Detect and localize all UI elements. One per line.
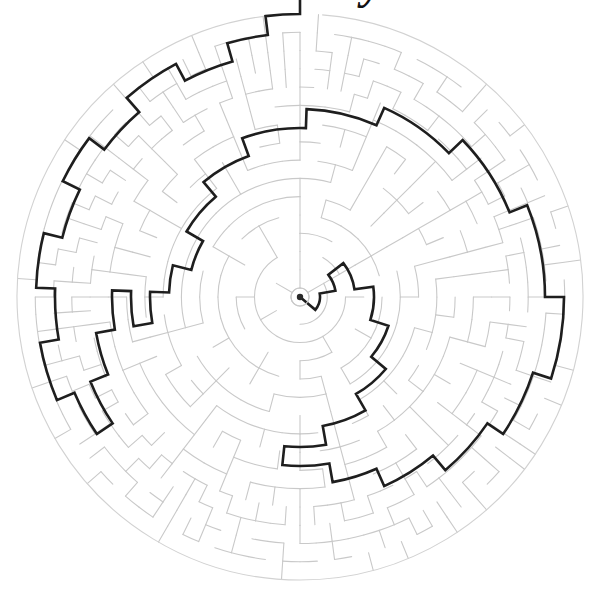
maze-canvas: y [0, 0, 606, 604]
circular-maze-svg [0, 0, 606, 604]
maze-goal-marker [291, 288, 309, 306]
